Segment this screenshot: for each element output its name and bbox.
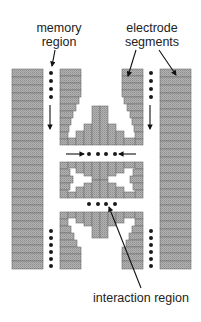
outer-right-electrodes <box>160 69 191 269</box>
inner-right-upper-electrodes <box>122 69 143 145</box>
middle-center-electrodes <box>60 162 143 198</box>
center-upper-ions <box>87 152 117 156</box>
outer-left-electrodes <box>12 69 43 269</box>
memory-right-top-ions <box>149 71 153 99</box>
trap-diagram: memory region electrode segments interac… <box>0 0 201 322</box>
upper-center-electrodes <box>68 106 135 145</box>
electrode-layout <box>0 0 201 322</box>
memory-right-bottom-ions <box>149 229 153 268</box>
memory-left-bottom-ions <box>49 229 53 268</box>
center-lower-ions <box>87 202 117 206</box>
inner-right-lower-electrodes <box>122 219 143 269</box>
memory-left-top-ions <box>49 71 53 99</box>
inner-left-lower-electrodes <box>60 219 81 269</box>
memory-pointer-arrow-icon <box>52 50 55 66</box>
